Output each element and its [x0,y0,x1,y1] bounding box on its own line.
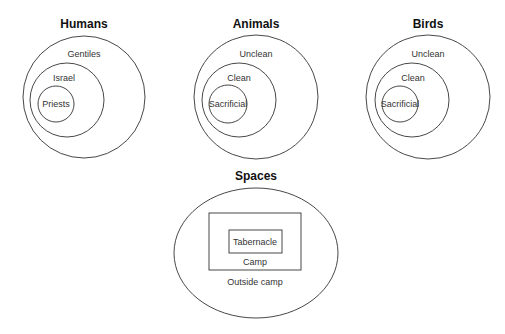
gentiles-label: Gentiles [67,49,101,59]
sacrificial-birds-label: Sacrificial [381,99,420,109]
holiness-diagram: Humans Gentiles Israel Priests Animals U… [0,0,505,334]
humans-diagram: Humans Gentiles Israel Priests [23,17,145,158]
animals-title: Animals [233,17,280,31]
outside-camp-label: Outside camp [227,277,283,287]
camp-label: Camp [243,257,267,267]
spaces-title: Spaces [235,169,277,183]
tabernacle-label: Tabernacle [233,237,277,247]
unclean-animals-label: Unclean [239,49,272,59]
sacrificial-animals-label: Sacrificial [209,99,248,109]
birds-diagram: Birds Unclean Clean Sacrificial [366,17,490,159]
humans-title: Humans [60,17,108,31]
spaces-diagram: Spaces Tabernacle Camp Outside camp [174,169,338,318]
priests-label: Priests [42,99,70,109]
unclean-birds-label: Unclean [411,49,444,59]
animals-diagram: Animals Unclean Clean Sacrificial [194,17,318,159]
birds-title: Birds [413,17,444,31]
clean-animals-label: Clean [227,73,251,83]
israel-label: Israel [53,73,75,83]
clean-birds-label: Clean [401,73,425,83]
